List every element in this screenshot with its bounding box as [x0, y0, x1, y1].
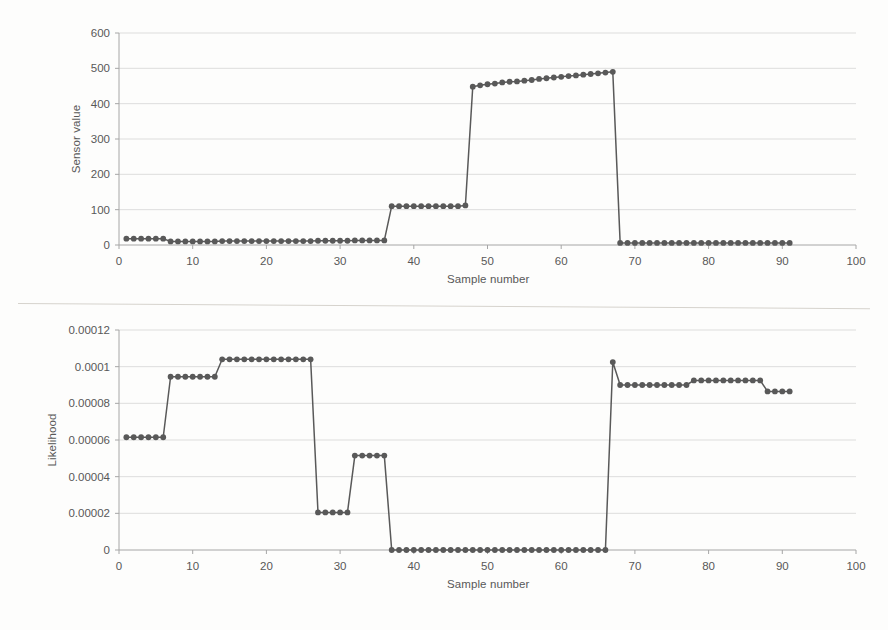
- data-point-marker: [588, 71, 594, 77]
- data-point-marker: [514, 79, 520, 85]
- series-line: [126, 359, 789, 550]
- data-point-marker: [610, 359, 616, 365]
- data-point-marker: [588, 547, 594, 553]
- data-point-marker: [345, 238, 351, 244]
- data-point-marker: [197, 374, 203, 380]
- data-point-marker: [352, 238, 358, 244]
- data-point-marker: [433, 547, 439, 553]
- data-point-marker: [219, 356, 225, 362]
- data-point-marker: [477, 82, 483, 88]
- data-point-marker: [411, 547, 417, 553]
- data-point-marker: [617, 240, 623, 246]
- data-point-marker: [544, 547, 550, 553]
- data-point-marker: [743, 378, 749, 384]
- data-point-marker: [485, 81, 491, 87]
- data-point-marker: [330, 510, 336, 516]
- data-point-marker: [293, 356, 299, 362]
- data-point-marker: [241, 356, 247, 362]
- data-point-marker: [765, 389, 771, 395]
- data-point-marker: [212, 374, 218, 380]
- data-point-marker: [625, 240, 631, 246]
- data-point-marker: [669, 240, 675, 246]
- data-point-marker: [426, 547, 432, 553]
- x-tick-label: 0: [116, 255, 122, 267]
- data-point-marker: [374, 453, 380, 459]
- likelihood-y-axis-title: Likelihood: [46, 414, 58, 467]
- data-point-marker: [396, 547, 402, 553]
- y-tick-label: 0.00006: [68, 434, 110, 446]
- data-point-marker: [654, 240, 660, 246]
- data-point-marker: [271, 356, 277, 362]
- figure-root: 0100200300400500600010203040506070809010…: [0, 0, 888, 630]
- data-point-marker: [684, 240, 690, 246]
- data-point-marker: [168, 374, 174, 380]
- data-point-marker: [558, 74, 564, 80]
- data-point-marker: [418, 203, 424, 209]
- data-point-marker: [448, 547, 454, 553]
- data-point-marker: [743, 240, 749, 246]
- data-point-marker: [647, 240, 653, 246]
- x-tick-label: 0: [116, 560, 122, 572]
- x-tick-label: 60: [555, 560, 568, 572]
- data-point-marker: [750, 378, 756, 384]
- data-point-marker: [404, 547, 410, 553]
- data-point-marker: [264, 356, 270, 362]
- data-point-marker: [205, 374, 211, 380]
- data-point-marker: [153, 236, 159, 242]
- data-point-marker: [750, 240, 756, 246]
- data-point-marker: [293, 238, 299, 244]
- data-point-marker: [345, 510, 351, 516]
- y-tick-label: 500: [91, 62, 110, 74]
- data-point-marker: [433, 203, 439, 209]
- data-point-marker: [536, 547, 542, 553]
- data-point-marker: [507, 547, 513, 553]
- data-point-marker: [728, 378, 734, 384]
- data-point-marker: [131, 236, 137, 242]
- data-point-marker: [190, 374, 196, 380]
- data-point-marker: [610, 69, 616, 75]
- likelihood-chart: 00.000020.000040.000060.000080.00010.000…: [0, 300, 888, 630]
- data-point-marker: [544, 75, 550, 81]
- x-tick-label: 50: [481, 255, 494, 267]
- data-point-marker: [691, 378, 697, 384]
- sensor-value-chart: 0100200300400500600010203040506070809010…: [0, 0, 888, 300]
- data-point-marker: [190, 239, 196, 245]
- data-point-marker: [359, 453, 365, 459]
- data-point-marker: [455, 203, 461, 209]
- data-point-marker: [573, 73, 579, 79]
- data-point-marker: [669, 382, 675, 388]
- data-point-marker: [661, 240, 667, 246]
- data-point-marker: [256, 356, 262, 362]
- y-tick-label: 0.00012: [68, 324, 110, 336]
- x-tick-label: 40: [407, 560, 420, 572]
- data-point-marker: [720, 240, 726, 246]
- data-point-marker: [278, 356, 284, 362]
- data-point-marker: [529, 77, 535, 83]
- data-point-marker: [492, 81, 498, 87]
- data-point-marker: [632, 382, 638, 388]
- data-point-marker: [706, 240, 712, 246]
- data-point-marker: [580, 72, 586, 78]
- data-point-marker: [713, 378, 719, 384]
- data-point-marker: [182, 239, 188, 245]
- series-line: [126, 72, 789, 243]
- data-point-marker: [389, 203, 395, 209]
- data-point-marker: [757, 378, 763, 384]
- x-tick-label: 30: [334, 255, 347, 267]
- y-tick-label: 300: [91, 133, 110, 145]
- y-tick-label: 400: [91, 98, 110, 110]
- data-point-marker: [440, 203, 446, 209]
- data-point-marker: [234, 238, 240, 244]
- sensor-value-x-axis-title: Sample number: [447, 273, 529, 285]
- data-point-marker: [308, 238, 314, 244]
- data-point-marker: [175, 374, 181, 380]
- data-point-marker: [367, 238, 373, 244]
- data-point-marker: [426, 203, 432, 209]
- data-point-marker: [168, 239, 174, 245]
- data-point-marker: [146, 236, 152, 242]
- sensor-value-plot: 0100200300400500600010203040506070809010…: [0, 0, 888, 300]
- data-point-marker: [521, 547, 527, 553]
- data-point-marker: [359, 238, 365, 244]
- data-point-marker: [647, 382, 653, 388]
- data-point-marker: [573, 547, 579, 553]
